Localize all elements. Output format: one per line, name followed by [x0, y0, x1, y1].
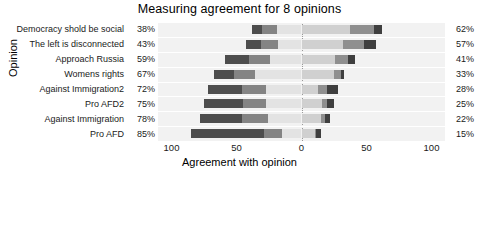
bar-segment-disagree: [264, 129, 282, 138]
bar-segment-strongly-disagree: [214, 70, 234, 79]
bar-segment-group-agree: [302, 129, 322, 138]
likert-chart: Measuring agreement for 8 opinions Opini…: [0, 0, 479, 244]
y-axis-label-row: Against Immigration272%: [0, 82, 158, 97]
bar-row: [158, 96, 445, 111]
bar-segment-rather-agree: [302, 129, 315, 138]
bar-segment-strongly-agree: [348, 55, 355, 64]
bar-segment-disagree: [249, 55, 270, 64]
left-total-percentage: 75%: [129, 99, 155, 109]
bar-segment-strongly-agree: [364, 40, 376, 49]
left-total-percentage: 78%: [129, 114, 155, 124]
x-axis-tick-label: 0: [299, 142, 304, 153]
left-total-percentage: 43%: [129, 39, 155, 49]
bar-segment-strongly-agree: [341, 70, 345, 79]
bar-segment-disagree: [243, 99, 266, 108]
right-label-row: 62%: [445, 22, 479, 37]
bar-segment-strongly-agree: [374, 25, 382, 34]
right-total-percentage: 28%: [456, 84, 479, 94]
y-axis-label-row: The left is disconnected43%: [0, 37, 158, 52]
opinion-label: Pro AFD2: [85, 99, 124, 109]
bar-segment-rather-agree: [302, 55, 336, 64]
bar-segment-strongly-disagree: [204, 99, 243, 108]
bar-segment-rather-disagree: [255, 70, 302, 79]
bar-segment-group-agree: [302, 114, 331, 123]
bar-segment-rather-agree: [302, 25, 350, 34]
chart-title: Measuring agreement for 8 opinions: [0, 2, 479, 16]
bar-segment-agree: [335, 55, 348, 64]
y-axis-label-row: Pro AFD275%: [0, 96, 158, 111]
right-total-percentage: 57%: [456, 39, 479, 49]
bar-segment-group-disagree: [252, 25, 301, 34]
bar-row: [158, 111, 445, 126]
bar-segment-disagree: [234, 70, 255, 79]
bar-segment-rather-agree: [302, 99, 323, 108]
left-total-percentage: 72%: [129, 84, 155, 94]
opinion-label: Approach Russia: [55, 54, 124, 64]
opinion-label: Womens rights: [64, 69, 124, 79]
bar-row: [158, 22, 445, 37]
left-total-percentage: 59%: [129, 54, 155, 64]
legend: Response strongly disagreedisagreerather…: [0, 186, 479, 236]
bar-segment-group-agree: [302, 40, 376, 49]
right-percentage-labels: 62%57%41%33%28%25%22%15%: [445, 22, 479, 141]
y-axis-label-row: Pro AFD85%: [0, 126, 158, 141]
bar-segment-strongly-disagree: [225, 55, 250, 64]
y-axis-label-row: Against Immigration78%: [0, 111, 158, 126]
y-axis-category-labels: Democracy shold be social38%The left is …: [0, 22, 158, 141]
bar-segment-agree: [343, 40, 364, 49]
bar-segment-rather-disagree: [266, 99, 301, 108]
bar-segment-strongly-disagree: [246, 40, 262, 49]
plot-panel: [158, 22, 445, 141]
bar-segment-disagree: [262, 25, 276, 34]
bar-segment-disagree: [242, 85, 267, 94]
bar-row: [158, 82, 445, 97]
bar-segment-rather-disagree: [278, 40, 301, 49]
right-label-row: 57%: [445, 37, 479, 52]
bar-segment-rather-disagree: [270, 55, 301, 64]
bar-segment-rather-disagree: [268, 114, 302, 123]
bar-segment-group-agree: [302, 70, 345, 79]
right-total-percentage: 25%: [456, 99, 479, 109]
opinion-label: Democracy shold be social: [16, 24, 124, 34]
y-axis-label-row: Democracy shold be social38%: [0, 22, 158, 37]
bar-segment-group-agree: [302, 99, 335, 108]
right-total-percentage: 22%: [456, 114, 479, 124]
bar-segment-agree: [350, 25, 375, 34]
opinion-label: Against Immigration: [44, 114, 124, 124]
y-axis-label-row: Approach Russia59%: [0, 52, 158, 67]
right-label-row: 33%: [445, 67, 479, 82]
left-total-percentage: 67%: [129, 69, 155, 79]
bar-segment-strongly-agree: [325, 114, 330, 123]
x-axis-title: Agreement with opinion: [0, 156, 479, 168]
bar-segment-group-disagree: [204, 99, 302, 108]
x-axis-ticks: 10050050100: [158, 142, 445, 156]
bar-segment-strongly-disagree: [252, 25, 262, 34]
right-label-row: 15%: [445, 126, 479, 141]
bar-segment-group-agree: [302, 85, 338, 94]
bar-segment-rather-disagree: [266, 85, 301, 94]
x-axis-tick-label: 50: [361, 142, 372, 153]
right-total-percentage: 15%: [456, 129, 479, 139]
bar-segment-rather-agree: [302, 70, 335, 79]
right-total-percentage: 62%: [456, 24, 479, 34]
right-label-row: 25%: [445, 96, 479, 111]
bar-row: [158, 52, 445, 67]
bar-row: [158, 126, 445, 141]
right-label-row: 41%: [445, 52, 479, 67]
x-axis-tick-label: 100: [424, 142, 440, 153]
bar-segment-group-disagree: [214, 70, 301, 79]
bar-segment-rather-disagree: [277, 25, 302, 34]
opinion-label: Pro AFD: [90, 129, 124, 139]
right-label-row: 22%: [445, 111, 479, 126]
bar-segment-group-agree: [302, 55, 355, 64]
bar-segment-rather-agree: [302, 85, 319, 94]
left-total-percentage: 85%: [129, 129, 155, 139]
bar-segment-group-disagree: [191, 129, 302, 138]
bar-segment-agree: [318, 85, 327, 94]
right-total-percentage: 41%: [456, 54, 479, 64]
bar-segment-strongly-agree: [327, 99, 334, 108]
bar-segment-group-disagree: [225, 55, 302, 64]
bar-segment-strongly-agree: [327, 85, 337, 94]
bar-segment-disagree: [242, 114, 268, 123]
bar-segment-group-disagree: [246, 40, 302, 49]
